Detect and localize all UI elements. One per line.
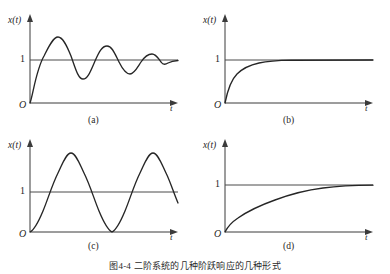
y-axis-label-b: x(t) bbox=[203, 16, 216, 26]
sublabel-d: (d) bbox=[283, 242, 294, 252]
sublabel-a: (a) bbox=[88, 116, 99, 126]
y-axis-label-d: x(t) bbox=[203, 141, 216, 151]
x-axis-label-c: t bbox=[170, 233, 173, 242]
reference-label-a: 1 bbox=[20, 54, 25, 64]
sublabel-c: (c) bbox=[88, 242, 99, 252]
chart-panel-b: x(t) 1 O t (b) bbox=[195, 0, 390, 129]
chart-svg-c bbox=[0, 129, 195, 258]
chart-svg-d bbox=[195, 129, 390, 258]
chart-panel-c: x(t) 1 O t (c) bbox=[0, 129, 195, 258]
origin-label-d: O bbox=[214, 229, 221, 239]
figure-root: x(t) 1 O t (a) x(t) 1 O t (b) bbox=[0, 0, 390, 274]
origin-label-c: O bbox=[19, 229, 26, 239]
reference-label-b: 1 bbox=[215, 54, 220, 64]
x-axis-label-b: t bbox=[365, 104, 368, 113]
chart-panel-d: x(t) 1 O t (d) bbox=[195, 129, 390, 258]
y-axis-arrow-b bbox=[222, 14, 228, 22]
panel-grid: x(t) 1 O t (a) x(t) 1 O t (b) bbox=[0, 0, 390, 258]
figure-caption: 图4-4 二阶系统的几种阶跃响应的几种形式 bbox=[0, 259, 390, 274]
y-axis-arrow-c bbox=[27, 139, 33, 147]
y-axis-label-a: x(t) bbox=[8, 16, 21, 26]
reference-label-d: 1 bbox=[215, 179, 220, 189]
sublabel-b: (b) bbox=[283, 116, 294, 126]
y-axis-arrow-a bbox=[27, 14, 33, 22]
y-axis-label-c: x(t) bbox=[8, 141, 21, 151]
x-axis-label-d: t bbox=[365, 233, 368, 242]
y-axis-arrow-d bbox=[222, 139, 228, 147]
x-axis-label-a: t bbox=[170, 104, 173, 113]
curve-a bbox=[30, 37, 178, 103]
reference-label-c: 1 bbox=[20, 186, 25, 196]
origin-label-b: O bbox=[214, 100, 221, 110]
curve-d bbox=[225, 185, 373, 232]
chart-svg-a bbox=[0, 0, 195, 129]
origin-label-a: O bbox=[19, 100, 26, 110]
chart-svg-b bbox=[195, 0, 390, 129]
chart-panel-a: x(t) 1 O t (a) bbox=[0, 0, 195, 129]
curve-b bbox=[225, 60, 373, 103]
